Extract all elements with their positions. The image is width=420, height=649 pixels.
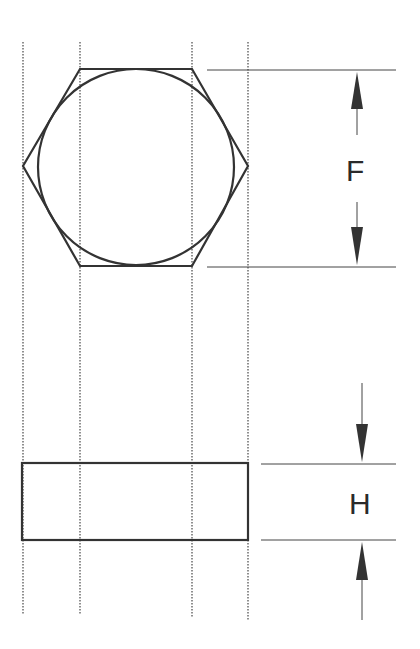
arrow-down-icon: [351, 227, 363, 265]
projection-guides: [23, 42, 248, 620]
inscribed-circle: [38, 69, 234, 265]
label-h: H: [349, 487, 371, 520]
arrow-down-icon: [356, 424, 368, 462]
hexagon-outline: [23, 69, 248, 266]
nut-side-view: [22, 463, 248, 540]
label-f: F: [346, 154, 364, 187]
dimension-f: [207, 70, 396, 267]
hex-nut-diagram: F H: [0, 0, 420, 649]
dimension-h: [261, 383, 396, 620]
arrow-up-icon: [351, 72, 363, 109]
arrow-up-icon: [356, 542, 368, 580]
hex-top-view: [23, 69, 248, 266]
